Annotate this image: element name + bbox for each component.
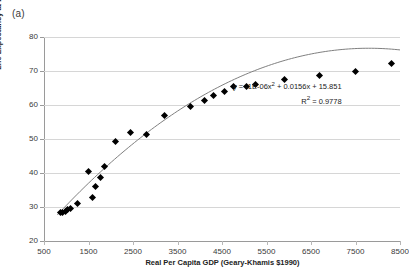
trendline-annotation: y = -1E-06x2 + 0.0156x + 15.851 R2 = 0.9…	[233, 78, 342, 106]
trendline-path	[57, 48, 400, 215]
y-tick-label: 30	[29, 203, 38, 211]
x-axis-title: Real Per Capita GDP (Geary-Khamis $1990)	[44, 258, 401, 267]
x-tick-label: 4500	[213, 248, 231, 256]
x-tick-mark	[44, 241, 45, 245]
plot-area	[44, 37, 400, 241]
x-tick-mark	[356, 241, 357, 245]
y-tick-label: 40	[29, 169, 38, 177]
r2-suffix: = 0.9778	[310, 96, 342, 105]
x-tick-mark	[400, 241, 401, 245]
equation-suffix: + 0.0156x + 15.851	[275, 82, 342, 91]
x-tick-label: 5500	[258, 248, 276, 256]
y-axis-title: Life Expectancy at Birth (LEB)	[0, 0, 3, 96]
panel-label: (a)	[12, 8, 25, 19]
x-tick-mark	[89, 241, 90, 245]
chart-figure: (a) 20304050607080 500150025003500450055…	[0, 0, 409, 275]
x-tick-mark	[267, 241, 268, 245]
x-tick-label: 1500	[80, 248, 98, 256]
x-tick-mark	[133, 241, 134, 245]
y-tick-label: 60	[29, 101, 38, 109]
x-tick-mark	[178, 241, 179, 245]
y-tick-label: 50	[29, 135, 38, 143]
y-tick-label: 80	[29, 33, 38, 41]
y-tick-label: 70	[29, 67, 38, 75]
equation-prefix: y = -1E-06x	[233, 82, 272, 91]
r-squared-value: R2 = 0.9778	[233, 92, 342, 107]
trendline	[44, 37, 400, 241]
x-tick-label: 2500	[124, 248, 142, 256]
x-tick-label: 3500	[169, 248, 187, 256]
x-tick-label: 7500	[347, 248, 365, 256]
x-tick-label: 8500	[391, 248, 409, 256]
x-tick-mark	[222, 241, 223, 245]
y-tick-label: 20	[29, 237, 38, 245]
x-tick-label: 6500	[302, 248, 320, 256]
trendline-equation: y = -1E-06x2 + 0.0156x + 15.851	[233, 82, 342, 91]
x-tick-mark	[311, 241, 312, 245]
x-tick-label: 500	[37, 248, 50, 256]
